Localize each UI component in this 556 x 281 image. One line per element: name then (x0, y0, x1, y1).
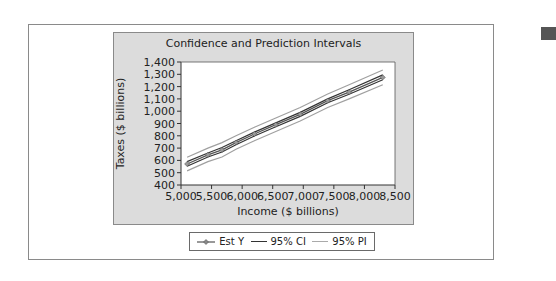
line-swatch-icon (251, 241, 267, 242)
x-tick-label: 8,000 (349, 190, 381, 203)
x-axis-label: Income ($ billions) (237, 205, 339, 218)
y-axis-label: Taxes ($ billions) (114, 78, 127, 171)
y-tick-label: 1,100 (144, 93, 176, 106)
y-tick-label: 600 (154, 154, 175, 167)
legend-label: Est Y (219, 236, 244, 247)
legend: Est Y 95% CI 95% PI (189, 232, 375, 251)
y-tick-label: 1,000 (144, 105, 176, 118)
legend-label: 95% CI (271, 236, 306, 247)
y-tick-label: 1,200 (144, 81, 176, 94)
x-tick-label: 8,500 (379, 190, 411, 203)
y-tick-label: 500 (154, 167, 175, 180)
diamond-marker-icon (197, 238, 215, 246)
y-tick-label: 900 (154, 118, 175, 131)
x-tick-label: 6,500 (257, 190, 289, 203)
legend-item-ci: 95% CI (251, 236, 306, 247)
x-tick-label: 6,000 (226, 190, 258, 203)
y-tick-label: 800 (154, 130, 175, 143)
y-tick-label: 1,400 (144, 56, 176, 69)
x-tick-label: 7,500 (318, 190, 350, 203)
legend-label: 95% PI (332, 236, 366, 247)
y-tick-label: 1,300 (144, 68, 176, 81)
line-swatch-icon (312, 241, 328, 242)
x-tick-label: 5,000 (165, 190, 197, 203)
x-tick-label: 5,500 (196, 190, 228, 203)
legend-item-est-y: Est Y (197, 236, 244, 247)
y-tick-label: 700 (154, 142, 175, 155)
plot-area (181, 62, 395, 185)
x-tick-label: 7,000 (288, 190, 320, 203)
legend-item-pi: 95% PI (312, 236, 366, 247)
